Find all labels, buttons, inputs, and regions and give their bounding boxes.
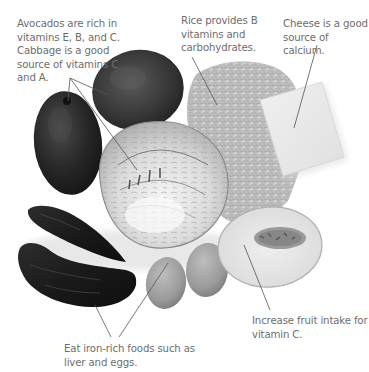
cabbage [99,122,228,249]
caption-iron: Eat iron-rich foods such as liver and eg… [64,342,214,369]
food-nutrition-figure: Avocados are rich in vitamins E, B, and … [0,0,369,372]
leader-liver [95,305,111,337]
caption-fruit: Increase fruit intake for vitamin C. [252,314,369,341]
caption-rice: Rice provides B vitamins and carbohydrat… [181,14,291,55]
caption-avocado-cabbage: Avocados are rich in vitamins E, B, and … [17,17,135,85]
caption-cheese: Cheese is a good source of calcium. [283,17,369,58]
